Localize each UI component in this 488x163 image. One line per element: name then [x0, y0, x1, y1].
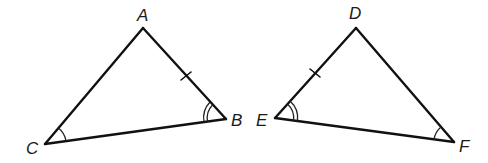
- angle-b-arc-inner: [207, 105, 212, 122]
- vertex-label-e: E: [256, 111, 268, 130]
- side-ef: [275, 118, 454, 142]
- triangle-def: D E F: [256, 4, 471, 156]
- side-ca: [45, 28, 143, 144]
- vertex-label-c: C: [26, 139, 39, 158]
- angle-c-arc: [59, 128, 67, 141]
- angle-f-arc: [434, 127, 441, 140]
- side-ab: [143, 28, 226, 119]
- vertex-label-a: A: [136, 6, 148, 25]
- side-fd: [356, 28, 454, 142]
- triangle-abc: A B C: [26, 6, 242, 158]
- vertex-label-b: B: [231, 111, 242, 130]
- vertex-label-f: F: [459, 137, 471, 156]
- congruent-triangles-diagram: A B C D E F: [0, 0, 488, 163]
- vertex-label-d: D: [349, 4, 361, 23]
- angle-e-arc-inner: [288, 104, 294, 121]
- side-bc: [45, 119, 226, 144]
